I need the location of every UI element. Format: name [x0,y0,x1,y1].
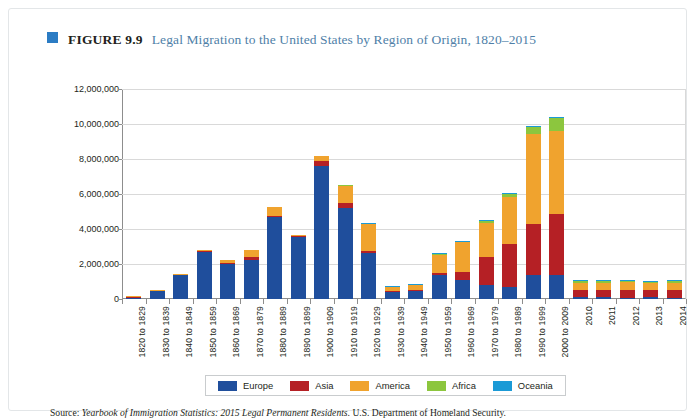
bar-segment-america[interactable] [455,242,470,272]
bar-segment-oceania[interactable] [408,284,423,285]
bar-segment-asia[interactable] [220,263,235,264]
bar-stack[interactable] [291,235,306,299]
bar-segment-europe[interactable] [408,291,423,299]
bar-stack[interactable] [220,260,235,299]
bar-segment-europe[interactable] [267,217,282,299]
bar-stack[interactable] [479,220,494,299]
bar-segment-europe[interactable] [432,275,447,299]
bar-stack[interactable] [620,280,635,299]
bar-segment-america[interactable] [126,296,141,297]
bar-segment-america[interactable] [291,235,306,236]
bar-segment-america[interactable] [244,250,259,257]
bar-stack[interactable] [314,156,329,299]
bar-stack[interactable] [267,207,282,299]
bar-segment-africa[interactable] [502,194,517,197]
legend-item-africa[interactable]: Africa [427,380,476,391]
legend-item-america[interactable]: America [350,380,409,391]
bar-segment-asia[interactable] [432,273,447,276]
bar-stack[interactable] [549,117,564,299]
bar-stack[interactable] [643,281,658,299]
bar-segment-asia[interactable] [502,244,517,287]
bar-segment-asia[interactable] [596,290,611,298]
bar-stack[interactable] [150,290,165,299]
bar-stack[interactable] [385,287,400,299]
bar-segment-asia[interactable] [479,257,494,285]
bar-segment-asia[interactable] [408,290,423,291]
bar-segment-america[interactable] [314,156,329,161]
bar-segment-africa[interactable] [643,281,658,283]
bar-segment-america[interactable] [596,283,611,290]
bar-segment-africa[interactable] [667,281,682,283]
bar-segment-africa[interactable] [596,281,611,283]
bar-segment-europe[interactable] [502,287,517,299]
bar-stack[interactable] [455,241,470,299]
bar-segment-america[interactable] [667,283,682,291]
bar-stack[interactable] [573,281,588,299]
bar-stack[interactable] [502,193,517,299]
bar-segment-asia[interactable] [314,161,329,166]
bar-stack[interactable] [526,126,541,299]
bar-segment-europe[interactable] [197,252,212,299]
legend-item-asia[interactable]: Asia [290,380,333,391]
bar-segment-europe[interactable] [314,166,329,299]
bar-segment-africa[interactable] [479,221,494,222]
bar-segment-america[interactable] [502,197,517,244]
bar-segment-oceania[interactable] [479,220,494,221]
bar-segment-america[interactable] [479,223,494,258]
bar-segment-europe[interactable] [244,260,259,299]
bar-segment-africa[interactable] [620,281,635,283]
bar-segment-asia[interactable] [526,224,541,276]
bar-segment-europe[interactable] [220,264,235,299]
bar-segment-america[interactable] [197,250,212,251]
bar-segment-america[interactable] [549,131,564,214]
bar-segment-europe[interactable] [526,275,541,299]
bar-segment-oceania[interactable] [667,280,682,281]
bar-segment-america[interactable] [620,282,635,290]
bar-segment-oceania[interactable] [643,281,658,282]
bar-segment-america[interactable] [573,283,588,290]
bar-segment-asia[interactable] [549,214,564,274]
bar-segment-africa[interactable] [338,185,353,186]
bar-segment-asia[interactable] [620,290,635,298]
bar-stack[interactable] [338,186,353,299]
bar-segment-oceania[interactable] [432,253,447,254]
bar-segment-europe[interactable] [385,291,400,299]
bar-segment-oceania[interactable] [502,193,517,194]
bar-stack[interactable] [173,274,188,299]
bar-segment-europe[interactable] [291,237,306,299]
bar-segment-america[interactable] [643,283,658,290]
bar-segment-europe[interactable] [338,208,353,299]
bar-segment-america[interactable] [220,260,235,263]
bar-segment-oceania[interactable] [620,280,635,281]
bar-segment-america[interactable] [338,186,353,204]
bar-segment-america[interactable] [385,287,400,291]
bar-segment-africa[interactable] [526,127,541,133]
bar-segment-asia[interactable] [667,290,682,297]
bar-segment-oceania[interactable] [573,280,588,281]
bar-stack[interactable] [197,250,212,299]
bar-segment-oceania[interactable] [455,241,470,242]
bar-segment-america[interactable] [526,134,541,224]
legend-item-europe[interactable]: Europe [218,380,273,391]
bar-segment-asia[interactable] [455,272,470,280]
bar-segment-america[interactable] [267,207,282,215]
bar-segment-europe[interactable] [549,275,564,300]
bar-segment-oceania[interactable] [549,117,564,118]
bar-stack[interactable] [244,250,259,299]
bar-segment-africa[interactable] [549,118,564,131]
bar-segment-asia[interactable] [643,290,658,297]
bar-segment-america[interactable] [408,284,423,290]
bar-segment-asia[interactable] [244,257,259,259]
bar-segment-europe[interactable] [455,280,470,299]
bar-segment-europe[interactable] [150,291,165,299]
bar-segment-america[interactable] [361,224,376,251]
bar-segment-africa[interactable] [573,281,588,283]
bar-segment-asia[interactable] [267,216,282,217]
bar-segment-europe[interactable] [479,285,494,299]
legend-item-oceania[interactable]: Oceania [493,380,553,391]
bar-stack[interactable] [667,281,682,299]
bar-segment-oceania[interactable] [526,126,541,127]
bar-stack[interactable] [408,284,423,299]
bar-segment-oceania[interactable] [385,286,400,287]
bar-stack[interactable] [596,281,611,299]
